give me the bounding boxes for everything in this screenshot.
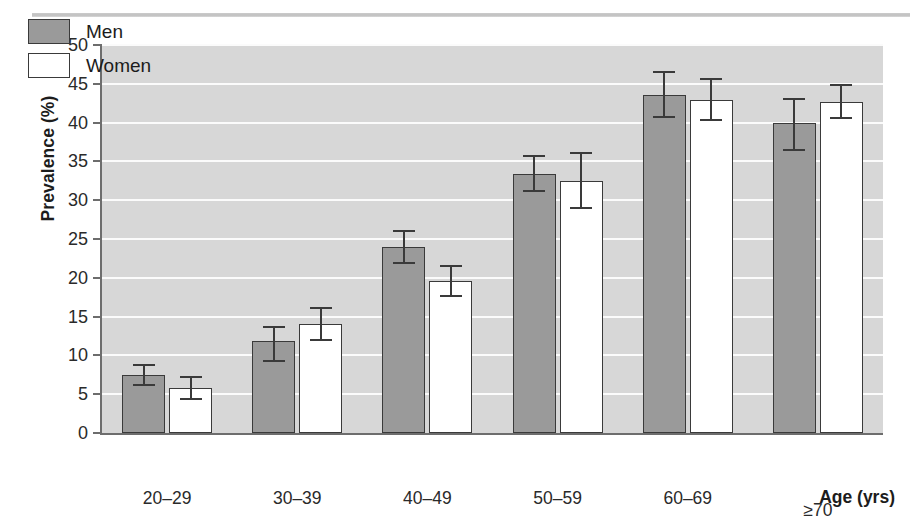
y-axis-tick-mark: [93, 238, 102, 240]
legend-swatch-men-icon: [28, 19, 70, 44]
legend-swatch-women-icon: [28, 53, 70, 78]
bar-women: [169, 388, 212, 433]
legend-item-men: Men: [28, 14, 151, 48]
bar-men: [773, 123, 816, 433]
y-axis-tick-mark: [93, 199, 102, 201]
bar-men: [252, 341, 295, 433]
bar-women: [820, 102, 863, 433]
bar-men: [643, 95, 686, 433]
error-bar-cap-top: [700, 78, 722, 80]
bar-group: [773, 45, 863, 433]
error-bar-cap-top: [310, 307, 332, 309]
y-axis-tick-label: 10: [68, 346, 88, 364]
plot-area: 05101520253035404550 20–2930–3940–4950–5…: [100, 45, 883, 435]
bar-group: [513, 45, 603, 433]
y-axis-tick-label: 5: [78, 385, 88, 403]
bar-series-container: [102, 45, 883, 433]
bar-women: [560, 181, 603, 433]
bar-men: [382, 247, 425, 433]
bar-women: [429, 281, 472, 433]
chart-legend: Men Women: [28, 14, 151, 82]
x-axis-tick-label: 40–49: [403, 488, 452, 509]
bar-group: [643, 45, 733, 433]
y-axis-tick-mark: [93, 354, 102, 356]
x-axis-tick-label: 30–39: [273, 488, 322, 509]
y-axis-tick-label: 40: [68, 114, 88, 132]
y-axis-tick-mark: [93, 432, 102, 434]
error-bar-cap-top: [180, 376, 202, 378]
top-divider-rule: [32, 13, 910, 17]
x-axis-tick-label: ≥70: [803, 500, 832, 521]
bar-men: [122, 375, 165, 433]
x-axis-tick-label: 20–29: [143, 488, 192, 509]
error-bar-cap-top: [523, 155, 545, 157]
error-bar-cap-top: [570, 152, 592, 154]
legend-item-women: Women: [28, 48, 151, 82]
error-bar-cap-top: [440, 265, 462, 267]
bar-women: [690, 100, 733, 433]
legend-label-women: Women: [86, 56, 151, 75]
y-axis-tick-mark: [93, 160, 102, 162]
bar-group: [252, 45, 342, 433]
figure-bar-chart-prevalence-by-age: Prevalence (%) Age (yrs) 051015202530354…: [0, 0, 913, 527]
y-axis-tick-label: 35: [68, 152, 88, 170]
y-axis-tick-mark: [93, 393, 102, 395]
y-axis-tick-mark: [93, 316, 102, 318]
error-bar-cap-top: [783, 98, 805, 100]
error-bar-cap-top: [263, 326, 285, 328]
error-bar-cap-top: [393, 230, 415, 232]
error-bar-cap-top: [830, 84, 852, 86]
y-axis-tick-label: 30: [68, 191, 88, 209]
y-axis-tick-mark: [93, 122, 102, 124]
y-axis-tick-label: 20: [68, 269, 88, 287]
y-axis-tick-mark: [93, 83, 102, 85]
y-axis-tick-label: 25: [68, 230, 88, 248]
bar-group: [382, 45, 472, 433]
y-axis-tick-label: 0: [78, 424, 88, 442]
bar-group: [122, 45, 212, 433]
bar-men: [513, 174, 556, 433]
error-bar-cap-top: [653, 71, 675, 73]
x-axis-tick-label: 50–59: [533, 488, 582, 509]
legend-label-men: Men: [86, 22, 123, 41]
error-bar-cap-top: [133, 364, 155, 366]
y-axis-tick-label: 15: [68, 308, 88, 326]
x-axis-tick-label: 60–69: [663, 488, 712, 509]
y-axis-tick-mark: [93, 277, 102, 279]
bar-women: [299, 324, 342, 433]
